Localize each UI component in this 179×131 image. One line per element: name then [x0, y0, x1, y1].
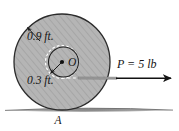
cord	[78, 77, 117, 79]
figure-canvas: 0.9 ft. 0.3 ft. O A P = 5 lb	[0, 0, 179, 131]
center-label: O	[68, 56, 77, 68]
ground-surface	[5, 108, 173, 112]
contact-point-label: A	[53, 114, 62, 126]
outer-radius-label: 0.9 ft.	[27, 30, 54, 43]
center-dot	[60, 60, 64, 64]
mechanics-figure: 0.9 ft. 0.3 ft. O A P = 5 lb	[0, 0, 179, 131]
inner-radius-label: 0.3 ft.	[27, 74, 54, 87]
force-label: P = 5 lb	[116, 57, 157, 71]
